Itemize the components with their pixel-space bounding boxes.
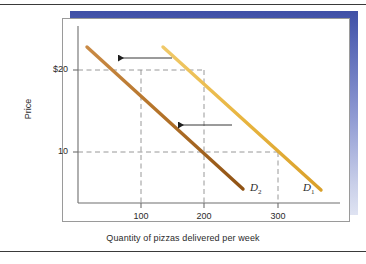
figure-bottom-rule bbox=[0, 251, 366, 252]
figure-top-rule bbox=[0, 4, 366, 5]
curve-label-d2-letter: D bbox=[250, 181, 258, 193]
x-tick-label-100: 100 bbox=[121, 211, 161, 221]
curve-label-d1-letter: D bbox=[303, 181, 311, 193]
x-tick-label-300: 300 bbox=[258, 211, 298, 221]
curve-label-d2-subscript: 2 bbox=[258, 188, 262, 196]
curve-label-d2: D2 bbox=[250, 181, 261, 196]
y-axis-title: Price bbox=[23, 79, 33, 139]
x-axis-title: Quantity of pizzas delivered per week bbox=[0, 233, 366, 243]
curve-label-d1: D1 bbox=[303, 181, 314, 196]
y-tick-label-10: 10 bbox=[36, 146, 68, 156]
x-tick-label-200: 200 bbox=[184, 211, 224, 221]
y-tick-label-20: $20 bbox=[36, 64, 68, 74]
curve-label-d1-subscript: 1 bbox=[311, 188, 315, 196]
